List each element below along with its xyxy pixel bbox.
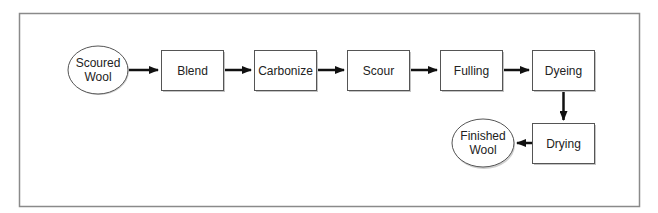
node-label: Scoured [76, 56, 121, 70]
node-label: Wool [469, 143, 496, 157]
node-dyeing: Dyeing [533, 51, 597, 93]
diagram-frame [20, 14, 640, 207]
wool-processing-flowchart: Scoured Wool Blend Carbonize Scour Fulli… [0, 0, 658, 213]
node-scour: Scour [348, 51, 412, 93]
node-label: Wool [84, 70, 111, 84]
node-label: Scour [363, 64, 394, 78]
node-label: Drying [546, 137, 581, 151]
node-label: Fulling [454, 64, 489, 78]
node-fulling: Fulling [441, 51, 505, 93]
node-label: Dyeing [545, 64, 582, 78]
node-carbonize: Carbonize [255, 51, 319, 93]
node-label: Blend [177, 64, 208, 78]
node-drying: Drying [533, 124, 597, 166]
node-scoured-wool: Scoured Wool [68, 46, 129, 95]
node-label: Carbonize [258, 64, 313, 78]
node-label: Finished [460, 129, 505, 143]
node-blend: Blend [162, 51, 226, 93]
